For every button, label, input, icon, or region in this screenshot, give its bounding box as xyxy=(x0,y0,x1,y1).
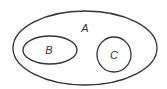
venn-diagram: A B C xyxy=(0,0,167,89)
set-c-label: C xyxy=(110,49,118,61)
set-b-label: B xyxy=(45,44,52,56)
set-a-label: A xyxy=(80,22,88,34)
